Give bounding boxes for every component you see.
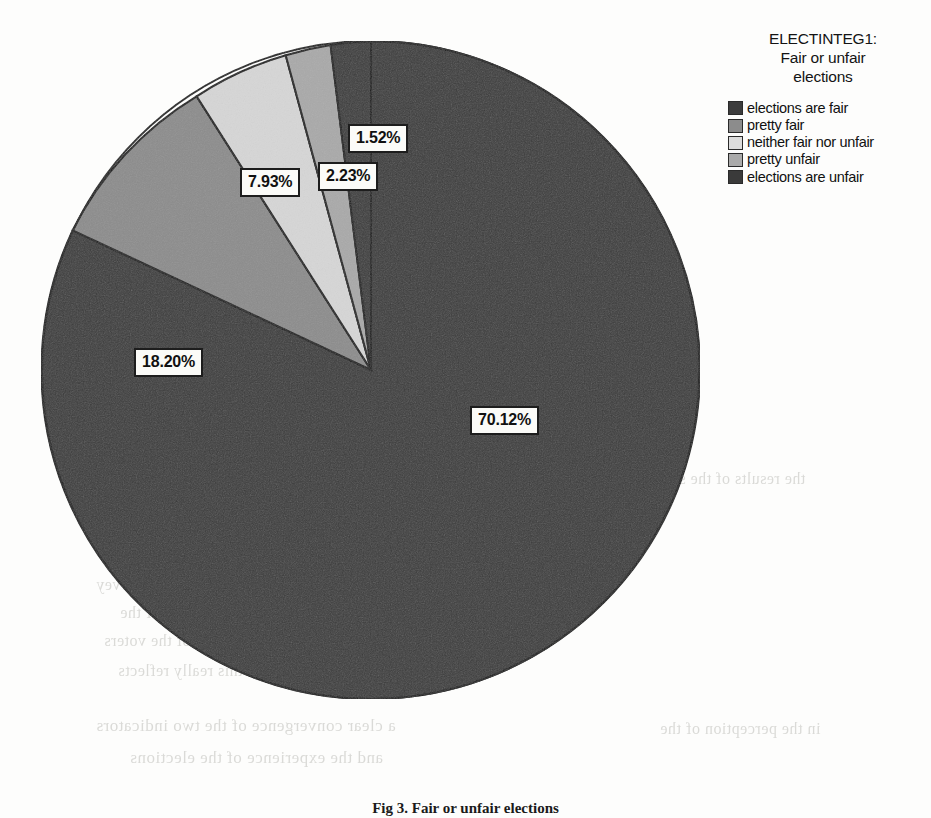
legend-title: ELECTINTEG1: Fair or unfair elections: [714, 30, 926, 87]
chart-legend: ELECTINTEG1: Fair or unfair elections el…: [714, 30, 926, 187]
legend-swatch-icon: [728, 136, 743, 150]
slice-value-label-neither-fair-nor-unfair: 7.93%: [240, 168, 300, 197]
legend-item-elections-are-unfair[interactable]: elections are unfair: [714, 170, 926, 185]
legend-item-pretty-unfair[interactable]: pretty unfair: [714, 152, 926, 167]
legend-title-line-3: elections: [720, 68, 926, 87]
slice-value-label-pretty-fair: 18.20%: [134, 348, 203, 377]
figure-caption: Fig 3. Fair or unfair elections: [0, 800, 931, 818]
legend-item-pretty-fair[interactable]: pretty fair: [714, 118, 926, 133]
legend-title-line-1: ELECTINTEG1:: [720, 30, 926, 49]
legend-item-elections-are-fair[interactable]: elections are fair: [714, 101, 926, 116]
slice-value-label-elections-are-fair: 70.12%: [470, 406, 539, 435]
legend-item-label: neither fair nor unfair: [747, 135, 874, 150]
slice-value-label-pretty-unfair: 2.23%: [318, 162, 378, 191]
legend-item-label: elections are fair: [747, 101, 848, 116]
bleed-line: a clear convergence of the two indicator…: [96, 716, 396, 736]
legend-item-neither-fair-nor-unfair[interactable]: neither fair nor unfair: [714, 135, 926, 150]
legend-item-label: elections are unfair: [747, 170, 864, 185]
legend-swatch-icon: [728, 119, 743, 133]
legend-item-label: pretty fair: [747, 118, 804, 133]
bleed-line: and the experience of the elections: [130, 748, 383, 768]
legend-swatch-icon: [728, 101, 743, 115]
legend-title-line-2: Fair or unfair: [720, 49, 926, 68]
slice-value-label-elections-are-unfair: 1.52%: [348, 124, 408, 153]
legend-item-label: pretty unfair: [747, 152, 820, 167]
bleed-line: in the perception of the: [660, 720, 820, 738]
scanned-chart-page: the results of the survey in the percept…: [0, 0, 931, 818]
legend-swatch-icon: [728, 153, 743, 167]
legend-swatch-icon: [728, 170, 743, 184]
